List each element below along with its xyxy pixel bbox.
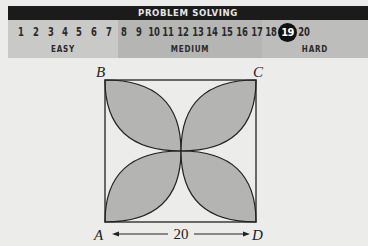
geometry-figure: B C A D 20 [0,0,368,246]
side-length-label: 20 [174,226,189,242]
petal-a [105,151,181,222]
petal-c [181,80,256,151]
arrowhead-right-icon [243,232,250,237]
vertex-label-a: A [93,227,104,243]
arrowhead-left-icon [112,232,119,237]
shaded-petals [105,80,256,222]
vertex-label-c: C [253,64,264,80]
petal-b [105,80,181,151]
vertex-label-b: B [96,64,105,80]
vertex-label-d: D [251,227,263,243]
petal-d [181,151,256,222]
